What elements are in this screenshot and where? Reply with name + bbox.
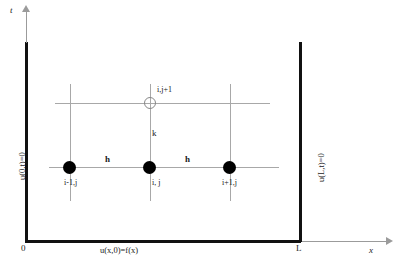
- spacing-label-k: k: [152, 128, 157, 138]
- node-i-j: [143, 161, 156, 174]
- grid-line-horizontal-upper: [55, 103, 270, 104]
- node-label-i-minus-1-j: i-1,j: [64, 178, 77, 187]
- t-axis-label: t: [10, 5, 13, 15]
- t-axis-boundary-line: [25, 42, 28, 242]
- right-boundary-line: [299, 42, 302, 242]
- node-i-minus-1-j: [63, 161, 76, 174]
- t-axis-shaft: [26, 9, 27, 43]
- spacing-label-h-left: h: [105, 154, 110, 164]
- node-label-i-j-plus-1: i,j+1: [157, 85, 172, 94]
- grid-line-horizontal-lower: [49, 167, 279, 168]
- x-axis-initial-condition-line: [25, 240, 301, 243]
- left-boundary-condition-label: u(0,t)=0: [17, 152, 27, 180]
- node-label-i-plus-1-j: i+1,j: [222, 178, 237, 187]
- right-boundary-condition-label: u(L,t)=0: [316, 153, 326, 182]
- spacing-label-h-right: h: [185, 154, 190, 164]
- x-axis-label: x: [369, 245, 373, 255]
- diagram-canvas: t x 0 L u(x,0)=f(x) u(0,t)=0 u(L,t)=0 i-…: [0, 0, 400, 267]
- t-axis-arrowhead-icon: [22, 5, 30, 12]
- x-axis-shaft: [300, 241, 387, 242]
- node-label-i-j: i, j: [152, 178, 160, 187]
- node-i-j-plus-1: [144, 97, 156, 109]
- initial-condition-label: u(x,0)=f(x): [100, 245, 138, 255]
- node-i-plus-1-j: [223, 161, 236, 174]
- origin-label: 0: [21, 243, 26, 253]
- x-axis-arrowhead-icon: [386, 237, 393, 245]
- length-label: L: [296, 243, 302, 253]
